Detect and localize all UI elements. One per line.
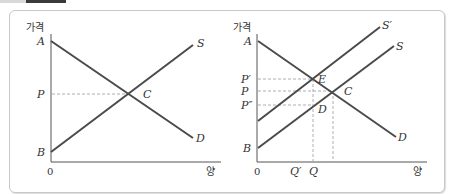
right-supply-shifted-label: S′ [382, 19, 393, 32]
right-demand-label: D [397, 131, 407, 144]
right-point-e: E [317, 73, 326, 86]
left-supply-label: S [197, 37, 205, 50]
right-label-a: A [243, 35, 252, 48]
supply-demand-figure: 가격 A P B C S D 0 양 가격 A P′ P P″ B E C D [0, 0, 452, 194]
left-point-c: C [143, 88, 152, 101]
right-supply-label: S [396, 40, 404, 53]
right-point-d: D [317, 103, 327, 116]
left-supply-curve [51, 45, 193, 152]
right-label-q: Q [309, 165, 318, 178]
left-label-b: B [36, 146, 45, 159]
right-label-q-prime: Q′ [290, 165, 302, 178]
left-label-p: P [36, 88, 45, 101]
left-x-axis-label: 양 [206, 166, 215, 177]
left-demand-curve [51, 41, 193, 138]
right-y-axis-label: 가격 [233, 21, 251, 33]
right-chart: 가격 A P′ P P″ B E C D S′ S D 0 Q′ Q 양 [233, 19, 427, 178]
right-demand-curve [258, 41, 396, 137]
right-origin-label: 0 [254, 166, 260, 177]
left-origin-label: 0 [47, 166, 53, 177]
left-y-axis-label: 가격 [26, 21, 44, 33]
right-label-p-double-prime: P″ [240, 99, 253, 112]
right-x-axis-label: 양 [413, 166, 422, 177]
right-label-p: P [240, 85, 249, 98]
right-supply-curve [258, 46, 394, 148]
right-label-b: B [242, 142, 251, 155]
left-demand-label: D [195, 132, 205, 145]
right-point-c: C [344, 85, 353, 98]
left-label-a: A [36, 35, 45, 48]
left-chart: 가격 A P B C S D 0 양 [26, 21, 221, 177]
